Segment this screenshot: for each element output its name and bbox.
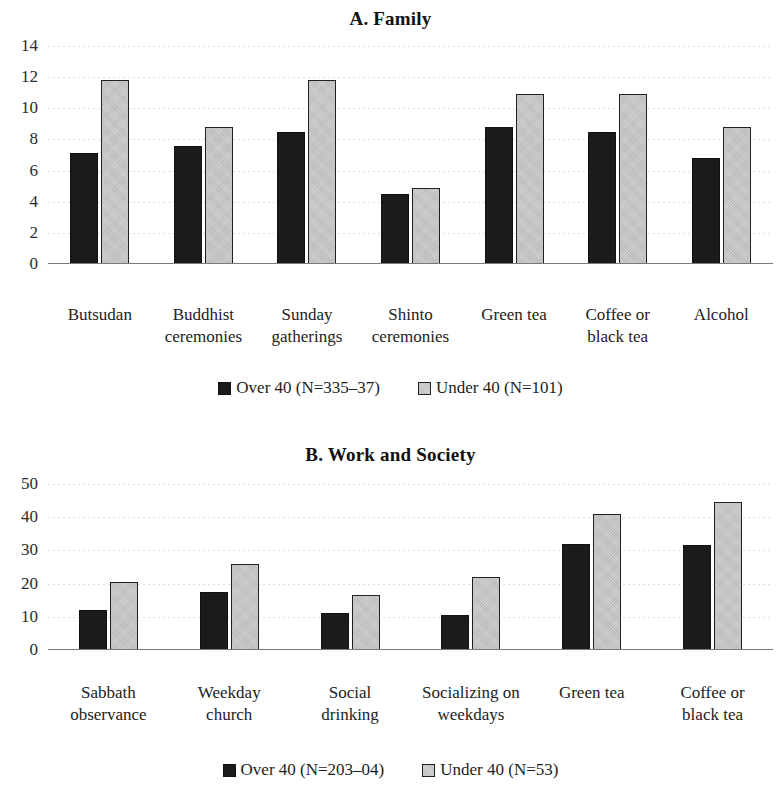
category-label: Buddhistceremonies (152, 304, 256, 348)
category-label-line: black tea (654, 704, 771, 726)
category-label: Green tea (462, 304, 566, 348)
legend-swatch-under-40-icon (418, 382, 431, 395)
panel-b-title: B. Work and Society (0, 430, 781, 466)
bar-group (531, 484, 652, 650)
category-label: Alcohol (669, 304, 773, 348)
legend-label-under-40: Under 40 (N=53) (440, 760, 558, 780)
panel-a-title: A. Family (0, 0, 781, 30)
bar-over-40 (70, 153, 98, 264)
panel-b-baseline (48, 649, 773, 650)
category-label: Green tea (531, 682, 652, 726)
bar-over-40 (692, 158, 720, 264)
category-label-line: Green tea (533, 682, 650, 704)
legend-item-under-40: Under 40 (N=53) (422, 760, 558, 780)
y-axis-tick-label: 14 (21, 36, 38, 56)
legend-item-under-40: Under 40 (N=101) (418, 378, 563, 398)
y-axis-tick-label: 50 (21, 474, 38, 494)
category-label: Coffee orblack tea (652, 682, 773, 726)
category-label-line: Coffee or (654, 682, 771, 704)
category-label-line: ceremonies (154, 326, 254, 348)
panel-a-legend: Over 40 (N=335–37) Under 40 (N=101) (0, 378, 781, 398)
category-label-line: Sabbath (50, 682, 167, 704)
panel-a-plot-area: 02468101214 (0, 46, 781, 264)
category-label-line: Buddhist (154, 304, 254, 326)
category-label-line: Sunday (257, 304, 357, 326)
legend-item-over-40: Over 40 (N=203–04) (223, 760, 385, 780)
bar-group (48, 46, 152, 264)
category-label: Coffee orblack tea (566, 304, 670, 348)
panel-a-category-labels: ButsudanBuddhistceremoniesSundaygatherin… (48, 304, 773, 348)
y-axis-tick-label: 8 (30, 129, 39, 149)
category-label-line: Weekday (171, 682, 288, 704)
y-axis-tick-label: 6 (30, 161, 39, 181)
y-axis-tick-label: 10 (21, 98, 38, 118)
panel-b-legend: Over 40 (N=203–04) Under 40 (N=53) (0, 760, 781, 780)
y-axis-tick-label: 10 (21, 607, 38, 627)
category-label: Sundaygatherings (255, 304, 359, 348)
category-label: Socialdrinking (290, 682, 411, 726)
bar-over-40 (79, 610, 107, 650)
bar-group (169, 484, 290, 650)
category-label-line: Shinto (361, 304, 461, 326)
bar-under-40 (352, 595, 380, 650)
bar-group (290, 484, 411, 650)
category-label-line: Alcohol (671, 304, 771, 326)
bar-over-40 (562, 544, 590, 650)
category-label: Sabbathobservance (48, 682, 169, 726)
category-label-line: weekdays (412, 704, 529, 726)
bar-over-40 (683, 545, 711, 650)
bar-group (652, 484, 773, 650)
bar-group (410, 484, 531, 650)
y-axis-tick-label: 0 (30, 254, 39, 274)
bar-group (359, 46, 463, 264)
y-axis-tick-label: 0 (30, 640, 39, 660)
bar-over-40 (485, 127, 513, 264)
bar-over-40 (588, 132, 616, 264)
bar-over-40 (277, 132, 305, 264)
category-label: Butsudan (48, 304, 152, 348)
category-label: Socializing onweekdays (410, 682, 531, 726)
legend-swatch-over-40-icon (218, 382, 231, 395)
legend-label-over-40: Over 40 (N=335–37) (236, 378, 380, 398)
y-axis-tick-label: 2 (30, 223, 39, 243)
y-axis-tick-label: 40 (21, 507, 38, 527)
bar-group (669, 46, 773, 264)
bar-under-40 (723, 127, 751, 264)
panel-b-plot-area: 01020304050 (0, 484, 781, 650)
bar-group (255, 46, 359, 264)
bar-under-40 (516, 94, 544, 264)
bar-group (48, 484, 169, 650)
bar-under-40 (472, 577, 500, 650)
bar-under-40 (205, 127, 233, 264)
y-axis-tick-label: 20 (21, 574, 38, 594)
bar-over-40 (441, 615, 469, 650)
panel-a-baseline (48, 263, 773, 264)
bar-group (566, 46, 670, 264)
bar-over-40 (174, 146, 202, 264)
category-label-line: Coffee or (568, 304, 668, 326)
category-label-line: church (171, 704, 288, 726)
panel-work-and-society: B. Work and Society 01020304050 Sabbatho… (0, 430, 781, 802)
panel-b-category-labels: SabbathobservanceWeekdaychurchSocialdrin… (48, 682, 773, 726)
bar-under-40 (593, 514, 621, 650)
bar-over-40 (381, 194, 409, 264)
legend-label-over-40: Over 40 (N=203–04) (241, 760, 385, 780)
category-label-line: Social (292, 682, 409, 704)
bar-over-40 (200, 592, 228, 650)
legend-label-under-40: Under 40 (N=101) (436, 378, 563, 398)
bar-under-40 (101, 80, 129, 264)
category-label-line: drinking (292, 704, 409, 726)
category-label-line: black tea (568, 326, 668, 348)
bar-under-40 (308, 80, 336, 264)
panel-b-bars (48, 484, 773, 650)
legend-swatch-over-40-icon (223, 764, 236, 777)
legend-item-over-40: Over 40 (N=335–37) (218, 378, 380, 398)
y-axis-tick-label: 4 (30, 192, 39, 212)
panel-a-y-axis: 02468101214 (0, 46, 44, 264)
bar-under-40 (714, 502, 742, 650)
bar-over-40 (321, 613, 349, 650)
category-label-line: observance (50, 704, 167, 726)
bar-under-40 (412, 188, 440, 264)
bar-under-40 (619, 94, 647, 264)
category-label-line: ceremonies (361, 326, 461, 348)
